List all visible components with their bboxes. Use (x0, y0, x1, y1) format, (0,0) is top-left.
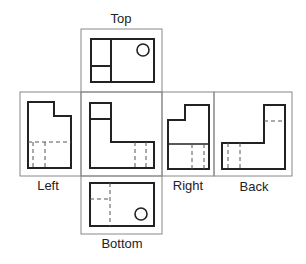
top-view-label: Top (81, 12, 161, 26)
bottom-view (90, 183, 154, 226)
orthographic-views-diagram: Top Left Right Back Bottom (0, 0, 306, 264)
top-view (91, 39, 154, 82)
view-frames (20, 29, 292, 234)
hole-circle-icon (135, 208, 147, 220)
right-view (168, 105, 209, 169)
front-view-frame (81, 92, 162, 176)
left-view-label: Left (8, 179, 88, 193)
back-view (222, 105, 285, 169)
left-view (28, 102, 71, 168)
bottom-view-label: Bottom (82, 237, 162, 251)
front-view (90, 103, 154, 168)
back-view-label: Back (214, 180, 294, 194)
hole-circle-icon (137, 44, 149, 56)
diagram-canvas (0, 0, 306, 264)
